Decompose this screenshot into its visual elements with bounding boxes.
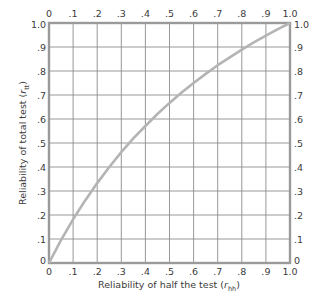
tick-label: .3 (117, 266, 126, 277)
x-axis-label: Reliability of half the test (rhh) (98, 279, 240, 293)
x-axis-label-close: ) (236, 279, 240, 290)
tick-label: 0 (40, 255, 46, 266)
y-axis-label-text: Reliability of total test ( (17, 94, 28, 205)
tick-label: .9 (261, 266, 270, 277)
tick-label: 0 (46, 266, 52, 277)
tick-label: .2 (93, 266, 102, 277)
tick-label: .4 (37, 162, 46, 173)
tick-label: .6 (189, 266, 198, 277)
tick-label: .1 (69, 266, 78, 277)
tick-label: .6 (189, 8, 198, 19)
tick-label: .3 (294, 186, 303, 197)
tick-label: 0 (294, 255, 300, 266)
tick-label: .5 (37, 138, 46, 149)
tick-label: .8 (237, 8, 246, 19)
tick-label: .1 (37, 234, 46, 245)
y-axis-right-ticks: 0.1.2.3.4.5.6.7.8.91.0 (294, 19, 309, 266)
tick-label: .3 (117, 8, 126, 19)
tick-label: .4 (141, 266, 150, 277)
tick-label: .9 (261, 8, 270, 19)
tick-label: .8 (237, 266, 246, 277)
tick-label: .5 (294, 138, 303, 149)
tick-label: 1.0 (282, 266, 297, 277)
tick-label: .7 (213, 266, 222, 277)
y-axis-label: Reliability of total test (rtt) (17, 81, 31, 205)
tick-label: .1 (294, 234, 303, 245)
tick-label: .3 (37, 186, 46, 197)
tick-label: .5 (165, 8, 174, 19)
x-axis-top-ticks: 0.1.2.3.4.5.6.7.8.91.0 (46, 8, 298, 19)
tick-label: .6 (37, 114, 46, 125)
x-axis-bottom-ticks: 0.1.2.3.4.5.6.7.8.91.0 (46, 266, 298, 277)
tick-label: .4 (141, 8, 150, 19)
tick-label: .7 (213, 8, 222, 19)
tick-label: 0 (46, 8, 52, 19)
tick-label: .7 (294, 90, 303, 101)
chart-grid (49, 23, 290, 263)
tick-label: .8 (37, 66, 46, 77)
tick-label: 1.0 (282, 8, 297, 19)
tick-label: .5 (165, 266, 174, 277)
tick-label: .9 (37, 42, 46, 53)
tick-label: .2 (37, 210, 46, 221)
x-axis-label-text: Reliability of half the test ( (98, 279, 224, 290)
tick-label: .6 (294, 114, 303, 125)
tick-label: .1 (69, 8, 78, 19)
tick-label: 1.0 (294, 19, 309, 30)
tick-label: .4 (294, 162, 303, 173)
tick-label: .7 (37, 90, 46, 101)
tick-label: .8 (294, 66, 303, 77)
tick-label: .2 (294, 210, 303, 221)
y-axis-left-ticks: 0.1.2.3.4.5.6.7.8.91.0 (31, 19, 46, 266)
x-axis-label-subscript: hh (228, 285, 236, 293)
y-axis-label-close: ) (17, 81, 28, 85)
tick-label: .2 (93, 8, 102, 19)
tick-label: .9 (294, 42, 303, 53)
tick-label: 1.0 (31, 19, 46, 30)
reliability-chart: 0.1.2.3.4.5.6.7.8.91.0 0.1.2.3.4.5.6.7.8… (0, 0, 318, 303)
